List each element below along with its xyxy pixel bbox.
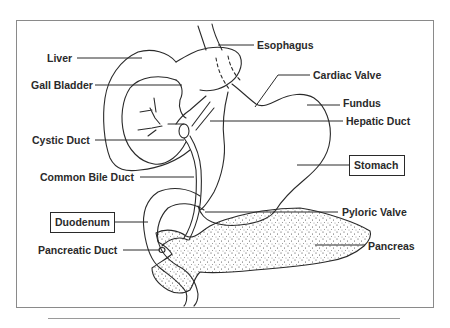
label-duodenum: Duodenum <box>55 216 110 228</box>
label-cardiac-valve: Cardiac Valve <box>313 69 381 81</box>
digestive-system-diagram: Liver Gall Bladder Cystic Duct Common Bi… <box>0 0 450 328</box>
label-fundus: Fundus <box>343 97 381 109</box>
label-cystic-duct: Cystic Duct <box>32 134 90 146</box>
label-stomach: Stomach <box>354 159 398 171</box>
label-esophagus: Esophagus <box>257 39 314 51</box>
label-gall-bladder: Gall Bladder <box>31 79 93 91</box>
label-liver: Liver <box>47 52 72 64</box>
label-pancreatic-duct: Pancreatic Duct <box>38 244 118 256</box>
label-pancreas: Pancreas <box>368 240 415 252</box>
label-hepatic-duct: Hepatic Duct <box>346 115 411 127</box>
label-pyloric-valve: Pyloric Valve <box>342 206 407 218</box>
label-common-bile-duct: Common Bile Duct <box>40 171 134 183</box>
